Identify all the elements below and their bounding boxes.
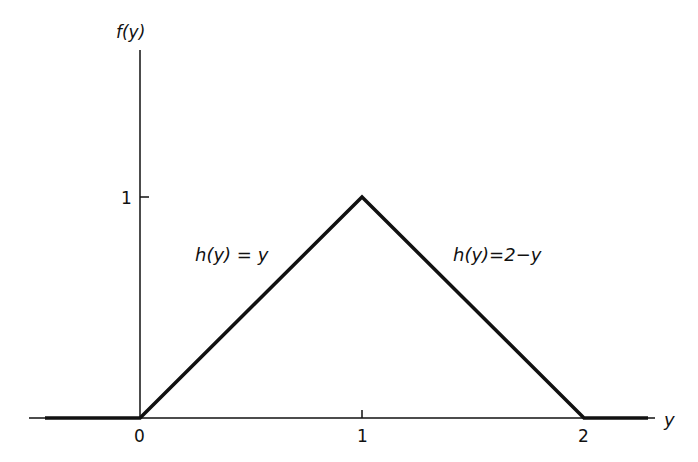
right-piece-label: h(y)=2−y <box>453 244 542 265</box>
triangle-density-chart: f(y) y 0 1 2 1 h(y) = y h(y)=2−y <box>0 0 698 462</box>
x-axis-label: y <box>663 409 675 430</box>
density-curve <box>45 197 648 418</box>
x-tick-label-2: 2 <box>578 426 589 446</box>
y-tick-label-1: 1 <box>121 188 132 208</box>
x-tick-label-1: 1 <box>357 426 368 446</box>
x-tick-label-0: 0 <box>134 426 145 446</box>
y-axis-label: f(y) <box>116 22 145 42</box>
chart-canvas: f(y) y 0 1 2 1 h(y) = y h(y)=2−y <box>0 0 698 462</box>
left-piece-label: h(y) = y <box>195 244 269 265</box>
